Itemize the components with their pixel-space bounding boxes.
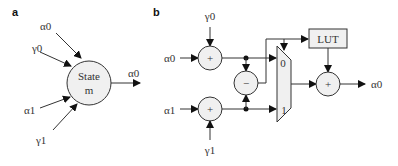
- panel-b-label: b: [153, 6, 160, 18]
- mux-input-0: 0: [280, 57, 286, 69]
- panel-a-label: a: [12, 6, 19, 18]
- output-alpha0-label: α0: [371, 78, 383, 90]
- arrow-alpha0: [56, 33, 81, 58]
- input-gamma0-label: γ0: [204, 10, 216, 22]
- input-gamma1-label: γ1: [35, 134, 46, 146]
- input-alpha1-label: α1: [164, 104, 175, 116]
- input-gamma1-label: γ1: [204, 144, 215, 156]
- arrow-alpha1: [40, 97, 70, 108]
- adder-output-symbol: +: [325, 78, 331, 90]
- mux-input-1: 1: [281, 104, 287, 116]
- state-node: [67, 61, 111, 105]
- adder-bottom-symbol: +: [207, 103, 213, 115]
- output-alpha0-label: α0: [128, 67, 140, 79]
- input-alpha0-label: α0: [40, 20, 52, 32]
- state-node-index: m: [85, 84, 94, 96]
- subtractor-symbol: −: [243, 77, 249, 89]
- state-node-title: State: [78, 70, 100, 82]
- panel-b: b γ0 α0 + α1 + γ1 − 0: [153, 6, 383, 156]
- panel-a: a α0 γ0 α1 γ1 State m α0: [12, 6, 140, 146]
- arrow-gamma1: [53, 104, 77, 130]
- input-alpha0-label: α0: [164, 52, 176, 64]
- input-alpha1-label: α1: [24, 104, 35, 116]
- lut-label: LUT: [317, 33, 339, 45]
- adder-top-symbol: +: [207, 52, 213, 64]
- arrow-gamma0: [40, 52, 71, 66]
- diagram-canvas: a α0 γ0 α1 γ1 State m α0 b γ0 α0 + α1: [0, 0, 398, 166]
